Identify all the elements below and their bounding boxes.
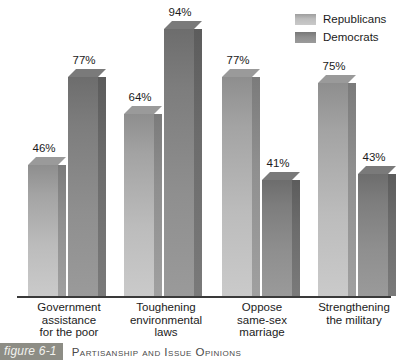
bar-republicans-oppose-same-sex-marriage: 77% — [222, 77, 252, 296]
bar-top-face — [358, 166, 396, 174]
bar-value-republicans-oppose-same-sex-marriage: 77% — [218, 54, 258, 66]
figure-number-badge: figure 6-1 — [0, 343, 63, 360]
bar-front-face — [222, 77, 252, 296]
bar-top-face — [28, 157, 66, 165]
x-axis-line — [17, 296, 391, 298]
bar-side-face — [292, 180, 300, 296]
category-label-line: for the poor — [14, 326, 124, 339]
bar-top-face — [318, 75, 356, 83]
bar-democrats-oppose-same-sex-marriage: 41% — [262, 180, 292, 296]
category-label-toughening-environmental-laws: Toughening environmental laws — [110, 301, 222, 339]
category-label-line: assistance — [14, 314, 124, 327]
bar-democrats-strengthening-the-military: 43% — [358, 174, 388, 296]
bar-value-democrats-government-assistance: 77% — [64, 54, 104, 66]
bar-side-face — [98, 77, 106, 296]
chart-plot-area: 46% 77% 64% 94% — [0, 0, 408, 300]
bar-side-face — [58, 165, 66, 296]
category-label-line: laws — [110, 326, 222, 339]
bar-top-face — [68, 69, 106, 77]
category-label-line: same-sex — [210, 314, 314, 327]
bar-top-face — [164, 21, 202, 29]
category-label-line: Toughening — [110, 301, 222, 314]
bar-side-face — [388, 174, 396, 296]
bar-republicans-toughening-environmental-laws: 64% — [124, 114, 154, 296]
bar-front-face — [68, 77, 98, 296]
figure-partisanship-issue-opinions: Republicans Democrats 46% 77% — [0, 0, 408, 360]
bar-value-republicans-strengthening-the-military: 75% — [314, 60, 354, 72]
bar-value-republicans-government-assistance: 46% — [24, 142, 64, 154]
bar-top-face — [222, 69, 260, 77]
bar-side-face — [348, 83, 356, 296]
bar-value-democrats-oppose-same-sex-marriage: 41% — [258, 157, 298, 169]
category-label-line: the military — [300, 314, 408, 327]
bar-value-republicans-toughening-environmental-laws: 64% — [120, 91, 160, 103]
category-label-line: marriage — [210, 326, 314, 339]
figure-caption-text: Partisanship and Issue Opinions — [63, 346, 242, 358]
category-label-line: Oppose — [210, 301, 314, 314]
category-label-line: Strengthening — [300, 301, 408, 314]
bar-front-face — [358, 174, 388, 296]
bar-value-democrats-strengthening-the-military: 43% — [354, 151, 394, 163]
bar-side-face — [194, 29, 202, 296]
bar-top-face — [124, 106, 162, 114]
bar-front-face — [262, 180, 292, 296]
category-label-government-assistance: Government assistance for the poor — [14, 301, 124, 339]
bar-front-face — [28, 165, 58, 296]
bar-republicans-strengthening-the-military: 75% — [318, 83, 348, 296]
bar-republicans-government-assistance: 46% — [28, 165, 58, 296]
bar-democrats-toughening-environmental-laws: 94% — [164, 29, 194, 296]
category-label-line: Government — [14, 301, 124, 314]
bar-front-face — [164, 29, 194, 296]
bar-democrats-government-assistance: 77% — [68, 77, 98, 296]
bar-top-face — [262, 172, 300, 180]
bar-side-face — [252, 77, 260, 296]
category-label-strengthening-the-military: Strengthening the military — [300, 301, 408, 326]
bar-value-democrats-toughening-environmental-laws: 94% — [160, 6, 200, 18]
category-label-oppose-same-sex-marriage: Oppose same-sex marriage — [210, 301, 314, 339]
bar-front-face — [124, 114, 154, 296]
bar-front-face — [318, 83, 348, 296]
figure-caption: figure 6-1 Partisanship and Issue Opinio… — [0, 343, 408, 360]
bar-side-face — [154, 114, 162, 296]
category-label-line: environmental — [110, 314, 222, 327]
